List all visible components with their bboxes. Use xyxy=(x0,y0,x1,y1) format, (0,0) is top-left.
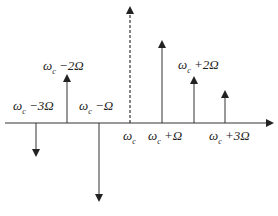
label-wc-minus-omega: ωc −Ω xyxy=(79,98,113,116)
label-wc: ωc xyxy=(123,128,136,146)
label-wc-plus-2omega: ωc +2Ω xyxy=(178,57,219,75)
label-wc-plus-omega: ωc +Ω xyxy=(148,128,182,146)
label-wc-minus-2omega: ωc −2Ω xyxy=(43,58,84,76)
label-wc-minus-3omega: ωc −3Ω xyxy=(13,98,54,116)
label-wc-plus-3omega: ωc +3Ω xyxy=(209,128,250,146)
